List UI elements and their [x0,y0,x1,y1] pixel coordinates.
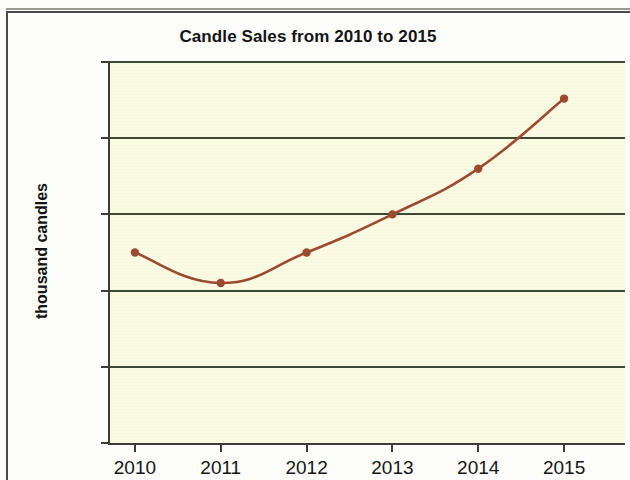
y-axis-tick-mark [101,61,110,63]
x-axis-tick-mark [563,443,565,452]
data-series-svg [110,62,625,443]
y-axis-tick-mark [101,213,110,215]
series-line-path [135,99,564,283]
series-markers-group [131,94,569,287]
x-axis-tick-label: 2010 [90,457,180,479]
x-axis-tick-label: 2013 [347,457,437,479]
plot-area: 11001000900800700600 2010201120122013201… [108,62,625,445]
x-axis-tick-label: 2012 [262,457,352,479]
y-axis-tick-mark [101,442,110,444]
x-axis-tick-label: 2014 [433,457,523,479]
x-axis-tick-mark [391,443,393,452]
data-point-marker [560,94,568,102]
x-axis-tick-label: 2011 [176,457,266,479]
y-axis-tick-mark [101,290,110,292]
data-point-marker [474,164,482,172]
y-axis-tick-mark [101,137,110,139]
data-point-marker [217,279,225,287]
x-axis-tick-mark [477,443,479,452]
data-point-marker [131,248,139,256]
chart-title: Candle Sales from 2010 to 2015 [108,27,508,47]
x-axis-tick-mark [134,443,136,452]
x-axis-tick-label: 2015 [519,457,609,479]
x-axis-tick-mark [306,443,308,452]
scanned-page: Candle Sales from 2010 to 2015 thousand … [0,0,630,480]
data-point-marker [302,248,310,256]
line-chart-figure: Candle Sales from 2010 to 2015 thousand … [0,0,630,480]
y-axis-title: thousand candles [33,131,51,371]
data-point-marker [388,210,396,218]
y-axis-tick-mark [101,366,110,368]
x-axis-tick-mark [220,443,222,452]
